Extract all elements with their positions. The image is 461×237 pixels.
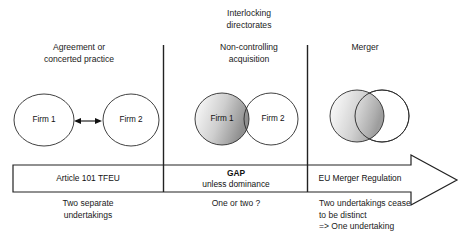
- banner-sub-gap: unless dominance: [202, 179, 270, 189]
- connector-double-arrow: [74, 118, 102, 124]
- label-firm1-agreement: Firm 1: [19, 115, 69, 125]
- footer-caption-agreement: Two separate undertakings: [20, 198, 156, 221]
- diagram-canvas: Agreement or concerted practice Interloc…: [0, 0, 461, 237]
- banner-cell-article-101: Article 101 TFEU: [16, 173, 160, 184]
- banner-main-agreement: Article 101 TFEU: [56, 173, 120, 183]
- banner-cell-gap: GAP unless dominance: [166, 168, 306, 189]
- label-firm2-agreement: Firm 2: [106, 115, 156, 125]
- banner-main-merger: EU Merger Regulation: [319, 173, 402, 183]
- footer-caption-non-controlling: One or two ?: [172, 198, 300, 210]
- label-firm1-non-controlling: Firm 1: [197, 114, 247, 124]
- label-firm2-non-controlling: Firm 2: [248, 114, 298, 124]
- ellipse-merger-left: [330, 90, 384, 142]
- banner-main-gap: GAP: [227, 168, 245, 178]
- footer-caption-merger: Two undertakings cease to be distinct =>…: [319, 198, 459, 233]
- banner-cell-eu-merger-regulation: EU Merger Regulation: [310, 173, 410, 184]
